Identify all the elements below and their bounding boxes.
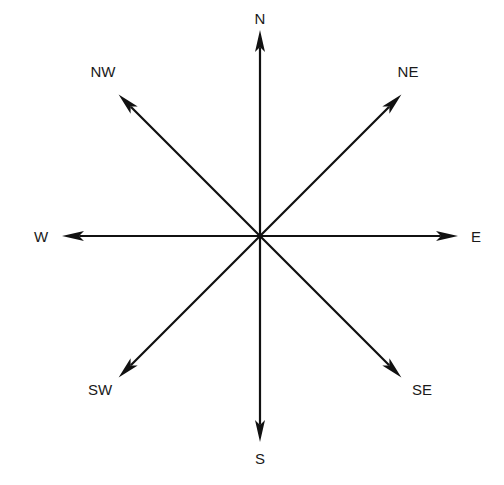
label-e: E [471,228,481,245]
label-ne: NE [398,63,419,80]
label-s: S [255,450,265,467]
compass-rose-diagram: N NE E SE S SW W NW [0,0,504,485]
compass-center [258,234,263,239]
label-w: W [34,228,49,245]
label-n: N [255,10,266,27]
arrow-shaft-ne [260,107,389,236]
label-se: SE [412,381,432,398]
arrow-shaft-sw [131,236,260,365]
arrow-shaft-nw [131,107,260,236]
label-nw: NW [91,63,117,80]
label-sw: SW [88,381,113,398]
arrow-shaft-se [260,236,389,365]
